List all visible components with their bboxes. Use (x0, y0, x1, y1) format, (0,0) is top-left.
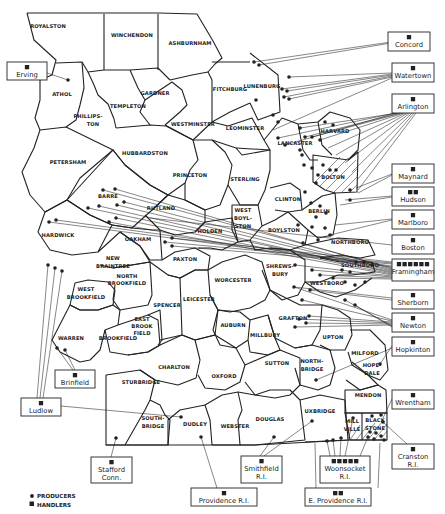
town-label: HOPE- (363, 362, 382, 368)
handler-name: Sherborn (397, 299, 428, 307)
town-label: BROOKFIELD (67, 294, 106, 300)
handler-square-icon (411, 97, 415, 101)
handler-square-icon (411, 167, 415, 171)
town-label: STURBRIDGE (122, 379, 161, 385)
town-label: DOUGLAS (256, 416, 285, 422)
town-label: WINCHENDON (111, 32, 153, 38)
handler-square-icon (411, 340, 415, 344)
handler-state: R.I. (256, 473, 267, 481)
town-label: BRIDGE (142, 423, 165, 429)
milk-shed-map: ROYALSTONWINCHENDONASHBURNHAMATHOLGARDNE… (0, 0, 445, 514)
town-label: AUBURN (220, 322, 245, 328)
town-label: LANCASTER (277, 140, 312, 146)
town-label: CLINTON (275, 196, 301, 202)
town-label: PETERSHAM (50, 159, 87, 165)
town-label: BURY (272, 271, 288, 277)
handler-square-icon (414, 190, 418, 194)
town-label: TON (87, 121, 100, 127)
handler-square-icon (419, 262, 423, 266)
town-label: SOUTH- (142, 415, 165, 421)
handler-name: Stafford (98, 466, 125, 474)
handler-box: Concord (388, 32, 430, 51)
handler-square-icon (411, 447, 415, 451)
handler-name: Brinfield (61, 379, 89, 387)
town-label: TEMPLETON (110, 103, 146, 109)
town-label: HARVARD (320, 128, 350, 134)
handler-name: Hudson (400, 196, 426, 204)
handler-square-icon (414, 262, 418, 266)
handler-square-icon (348, 459, 352, 463)
handler-name: Watertown (395, 72, 432, 80)
handler-state: R.I. (340, 473, 351, 481)
handler-box: CranstonR.I. (392, 444, 434, 469)
town-label: RUTLAND (147, 205, 176, 211)
handler-name: E. Providence R.I. (309, 497, 368, 505)
town-label: MILLBURY (250, 332, 280, 338)
town-label: PRINCETON (173, 172, 208, 178)
handler-name: Framingham (392, 268, 435, 276)
legend: PRODUCERS HANDLERS (30, 493, 76, 508)
town-label: EAST (134, 316, 150, 322)
town-label: UXBRIDGE (305, 408, 336, 414)
handler-box: Providence R.I. (191, 488, 257, 506)
town-label: LEICESTER (183, 296, 215, 302)
town-label: OAKHAM (125, 236, 151, 242)
handler-square-icon (333, 491, 337, 495)
town-label: WESTMINSTER (171, 121, 215, 127)
town-label: FITCHBURG (213, 86, 247, 92)
handler-square-icon (397, 262, 401, 266)
town-label: NEW (106, 255, 120, 261)
handler-name: Erving (16, 71, 38, 79)
handler-name: Wrentham (395, 399, 431, 407)
legend-producers: PRODUCERS (37, 493, 76, 499)
town-label: NORTH (117, 273, 138, 279)
town-label: HUBBARDSTON (122, 150, 168, 156)
handler-square-icon (109, 460, 113, 464)
handler-square-icon (407, 35, 411, 39)
handler-box: E. Providence R.I. (305, 488, 371, 506)
town-label: STON (235, 223, 251, 229)
handler-box: Newton (392, 313, 434, 332)
handler-square-icon (343, 459, 347, 463)
town-label: MILL (345, 418, 360, 424)
handler-square-icon (339, 491, 343, 495)
handler-square-icon (408, 190, 412, 194)
handler-box: Maynard (392, 164, 434, 183)
handler-name: Cranston (398, 453, 429, 461)
town-label: DALE (364, 370, 380, 376)
handler-box: Hudson (392, 187, 434, 206)
producer-dot-icon (30, 494, 34, 498)
town-label: WEST (235, 207, 252, 213)
handler-box: Arlington (392, 94, 434, 113)
handler-box: Framingham (392, 259, 435, 281)
handler-box: SmithfieldR.I. (241, 456, 282, 483)
town-label: SHREWS- (266, 263, 294, 269)
handler-name: Smithfield (244, 465, 278, 473)
town-label: BARRE (98, 193, 118, 199)
handler-square-icon (411, 293, 415, 297)
handler-name: Arlington (398, 103, 429, 111)
handler-square-icon (30, 502, 35, 507)
handler-box: Hopkinton (392, 337, 434, 356)
town-label: BRAINTREE (96, 263, 130, 269)
town-label: ATHOL (52, 91, 72, 97)
town-label: BRIDGE (301, 366, 324, 372)
town-label: LEOMINSTER (226, 125, 265, 131)
town-label: SOUTHBORO (341, 262, 379, 268)
town-label: HARDWICK (42, 232, 76, 238)
handler-square-icon (259, 459, 263, 463)
handler-box: Watertown (392, 63, 434, 82)
handler-square-icon (25, 65, 29, 69)
town-label: WORCESTER (214, 277, 251, 283)
handler-box: Sherborn (392, 290, 434, 309)
handler-square-icon (411, 213, 415, 217)
handler-name: Ludlow (29, 407, 53, 415)
handler-box: WoonsocketR.I. (320, 456, 370, 483)
town-label: NORTH- (300, 358, 323, 364)
handler-square-icon (425, 262, 429, 266)
town-label: HOLDEN (198, 228, 223, 234)
handler-square-icon (408, 262, 412, 266)
town-label: WARREN (58, 335, 84, 341)
handler-box: Marlboro (392, 210, 434, 229)
town-label: BLACK (365, 417, 385, 423)
